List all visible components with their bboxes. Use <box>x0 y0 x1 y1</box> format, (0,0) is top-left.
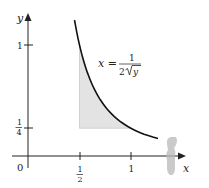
x-axis-arrow-icon <box>178 153 186 160</box>
y-axis-arrow-icon <box>25 13 32 21</box>
x-axis-label: x <box>183 162 190 175</box>
x-tick-label-half-num: 1 <box>78 165 83 174</box>
y-tick-label-1: 1 <box>17 41 23 51</box>
equation-denominator-coef: 2 <box>119 67 125 77</box>
y-tick-label-quarter-num: 1 <box>17 118 22 127</box>
origin-label: 0 <box>17 162 23 173</box>
x-tick-label-half-den: 2 <box>78 175 83 184</box>
equation-denominator-var: y <box>132 67 139 77</box>
y-axis-label: y <box>16 12 24 25</box>
chart-figure: y x 0 1 1 4 1 2 1 x = 1 2 y <box>0 0 209 188</box>
equation-lhs: x = <box>98 57 117 70</box>
x-tick-label-1: 1 <box>129 164 135 174</box>
y-tick-label-quarter-den: 4 <box>17 128 22 137</box>
equation-numerator: 1 <box>129 53 135 63</box>
